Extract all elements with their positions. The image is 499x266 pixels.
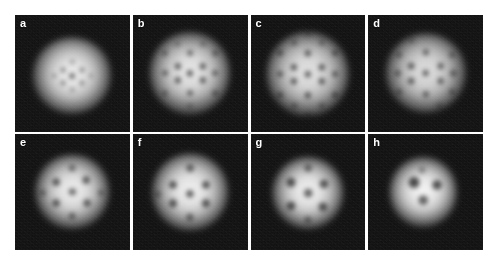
- panel-label-g: g: [256, 136, 263, 149]
- condensate-cloud: [385, 34, 465, 113]
- condensate-cloud: [152, 153, 228, 230]
- panel-label-f: f: [138, 136, 142, 149]
- panel-label-c: c: [256, 17, 262, 30]
- panel-label-h: h: [373, 136, 380, 149]
- absorption-image-panel-h: h: [368, 134, 483, 251]
- figure-container: abcdefgh: [0, 0, 499, 266]
- condensate-cloud: [33, 37, 111, 114]
- condensate-cloud: [267, 32, 350, 116]
- panel-grid: abcdefgh: [15, 15, 483, 250]
- absorption-image-panel-d: d: [368, 15, 483, 132]
- panel-label-e: e: [20, 136, 26, 149]
- absorption-image-panel-b: b: [133, 15, 248, 132]
- absorption-image-panel-a: a: [15, 15, 130, 132]
- condensate-cloud: [272, 157, 343, 229]
- panel-label-b: b: [138, 17, 145, 30]
- panel-label-a: a: [20, 17, 26, 30]
- absorption-image-panel-f: f: [133, 134, 248, 251]
- condensate-cloud: [150, 32, 230, 114]
- condensate-cloud: [36, 154, 109, 229]
- panel-label-d: d: [373, 17, 380, 30]
- absorption-image-panel-c: c: [251, 15, 366, 132]
- absorption-image-panel-e: e: [15, 134, 130, 251]
- condensate-cloud: [390, 157, 457, 227]
- absorption-image-panel-g: g: [251, 134, 366, 251]
